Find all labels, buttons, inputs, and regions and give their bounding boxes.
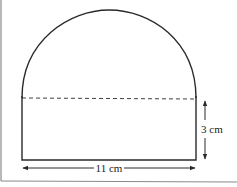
width-label: 11 cm [96,162,123,174]
rectangle-outline [22,96,196,160]
dashed-divider [22,98,196,99]
frame-bottom-border [1,181,237,182]
semicircle-arc [22,10,196,98]
height-label: 3 cm [201,123,223,135]
diagram-canvas: 11 cm 3 cm [0,0,237,187]
